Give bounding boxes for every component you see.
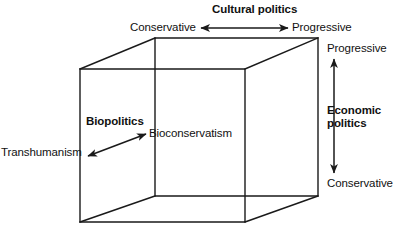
economic-progressive-pole-label: Progressive [327,42,387,55]
cube-back-face [155,38,318,196]
transhumanism-pole-label: Transhumanism [1,146,82,159]
economic-politics-label-line1: Economic [327,104,381,116]
biopolitics-axis-arrow [88,134,146,156]
cultural-progressive-pole-label: Progressive [292,21,352,34]
political-cube-diagram: Cultural politics Conservative Progressi… [0,0,393,237]
bioconservatism-pole-label: Bioconservatism [149,127,232,140]
biopolitics-axis-label: Biopolitics [86,115,144,128]
economic-politics-axis-label: Economicpolitics [327,104,381,130]
cube-front-face [80,69,245,222]
economic-politics-label-line2: politics [327,117,366,129]
economic-conservative-pole-label: Conservative [327,177,393,190]
cultural-conservative-pole-label: Conservative [130,21,196,34]
cultural-politics-axis-label: Cultural politics [212,3,297,16]
